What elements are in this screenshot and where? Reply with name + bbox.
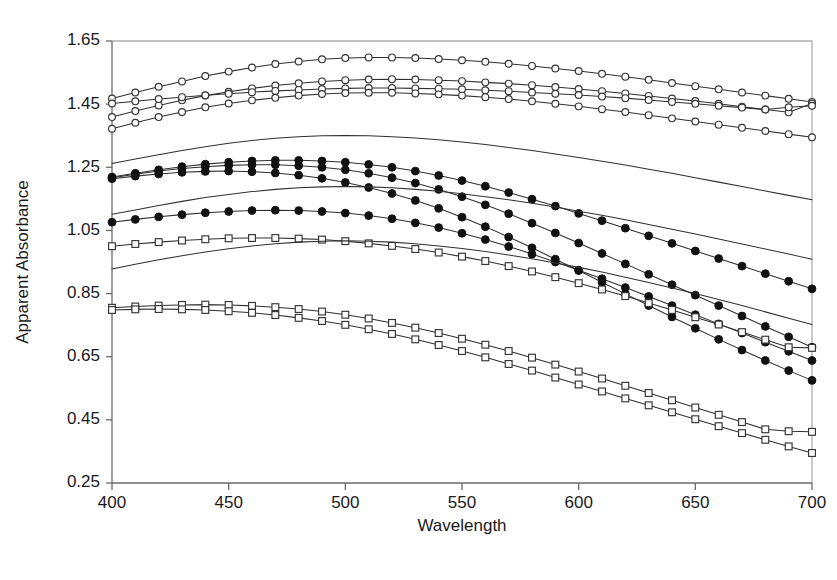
- data-point: [109, 100, 116, 107]
- data-point: [599, 106, 606, 113]
- data-point: [225, 308, 232, 315]
- data-point: [435, 342, 442, 349]
- data-point: [295, 207, 303, 215]
- data-point: [155, 306, 162, 313]
- data-point: [435, 77, 442, 84]
- data-point: [108, 175, 116, 183]
- data-point: [132, 89, 139, 96]
- data-point: [528, 195, 536, 203]
- data-point: [342, 77, 349, 84]
- data-point: [459, 78, 466, 85]
- data-point: [225, 68, 232, 75]
- data-point: [109, 125, 116, 132]
- series-open-square-3: [109, 306, 816, 457]
- data-point: [739, 329, 746, 336]
- data-point: [692, 416, 699, 423]
- data-point: [108, 218, 116, 226]
- data-point: [599, 388, 606, 395]
- data-point: [505, 80, 512, 87]
- data-point: [202, 73, 209, 80]
- data-point: [482, 79, 489, 86]
- data-point: [808, 357, 816, 365]
- data-point: [225, 208, 233, 216]
- data-point: [225, 167, 233, 175]
- data-point: [435, 330, 442, 337]
- y-axis-title: Apparent Absorbance: [13, 180, 32, 344]
- data-point: [552, 84, 559, 91]
- x-tick-label: 400: [98, 493, 126, 512]
- data-point: [599, 286, 606, 293]
- data-point: [459, 348, 466, 355]
- data-point: [201, 209, 209, 217]
- data-point: [271, 161, 279, 169]
- data-point: [739, 124, 746, 131]
- data-point: [738, 262, 746, 270]
- spectral-absorbance-chart: 0.250.450.650.851.051.251.451.6540045050…: [0, 0, 837, 580]
- axis-spines: [112, 41, 812, 483]
- series-open-square-1: [109, 235, 816, 352]
- data-point: [529, 354, 536, 361]
- data-point: [481, 201, 489, 209]
- y-tick-label: 1.25: [67, 157, 100, 176]
- data-point: [691, 247, 699, 255]
- data-point: [505, 210, 513, 218]
- data-point: [459, 253, 466, 260]
- series-line-open-square-3: [112, 309, 812, 453]
- y-tick-label: 0.65: [67, 346, 100, 365]
- data-point: [179, 94, 186, 101]
- data-point: [249, 89, 256, 96]
- data-point: [691, 324, 699, 332]
- data-point: [762, 92, 769, 99]
- data-point: [575, 280, 582, 287]
- data-point: [319, 78, 326, 85]
- data-point: [738, 312, 746, 320]
- data-point: [389, 320, 396, 327]
- data-point: [482, 354, 489, 361]
- data-point: [575, 103, 582, 110]
- data-point: [482, 87, 489, 94]
- data-point: [178, 211, 186, 219]
- data-point: [295, 306, 302, 313]
- data-point: [622, 109, 629, 116]
- data-point: [529, 268, 536, 275]
- data-point: [529, 367, 536, 374]
- data-point: [715, 335, 723, 343]
- data-point: [365, 212, 373, 220]
- data-point: [412, 55, 419, 62]
- data-point: [389, 243, 396, 250]
- data-point: [808, 376, 816, 384]
- data-point: [505, 361, 512, 368]
- data-point: [481, 236, 489, 244]
- chart-figure: 0.250.450.650.851.051.251.451.6540045050…: [0, 0, 837, 580]
- data-point: [645, 112, 652, 119]
- data-point: [645, 270, 653, 278]
- data-point: [762, 436, 769, 443]
- data-point: [319, 56, 326, 63]
- data-point: [715, 321, 722, 328]
- data-point: [551, 229, 559, 237]
- data-point: [739, 430, 746, 437]
- data-point: [435, 185, 443, 193]
- data-point: [575, 368, 582, 375]
- data-point: [738, 346, 746, 354]
- data-point: [809, 450, 816, 457]
- data-point: [109, 114, 116, 121]
- data-point: [272, 87, 279, 94]
- data-point: [481, 182, 489, 190]
- data-point: [552, 90, 559, 97]
- data-point: [179, 109, 186, 116]
- data-point: [715, 255, 723, 263]
- data-point: [669, 409, 676, 416]
- data-point: [481, 223, 489, 231]
- data-point: [645, 402, 652, 409]
- data-point: [622, 293, 629, 300]
- data-point: [482, 341, 489, 348]
- series-plain-line-1: [112, 135, 812, 199]
- series-filled-circle-1: [108, 156, 816, 292]
- series-line-open-square-2: [112, 305, 812, 432]
- data-point: [435, 56, 442, 63]
- data-point: [225, 235, 232, 242]
- data-point: [295, 314, 302, 321]
- data-point: [575, 92, 582, 99]
- data-point: [388, 163, 396, 171]
